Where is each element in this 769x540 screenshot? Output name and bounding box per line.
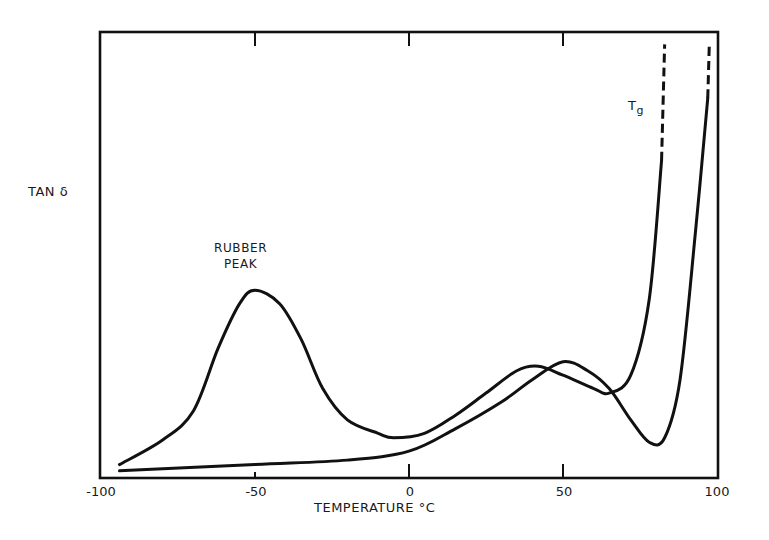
tg-subscript: g: [636, 104, 643, 117]
series-0-line: [119, 161, 661, 465]
series-1-dashed-extension: [708, 44, 710, 98]
x-tick-label-50: 50: [556, 484, 573, 499]
x-tick-label-neg100: -100: [86, 484, 116, 499]
x-axis-ticks: [255, 32, 563, 478]
series-group: [119, 44, 709, 470]
series-0-dashed-extension: [662, 44, 665, 160]
rubber-peak-annotation: RUBBER PEAK: [214, 240, 267, 272]
chart-plot-area: [0, 0, 769, 540]
x-tick-label-0: 0: [406, 484, 414, 499]
rubber-peak-line2: PEAK: [214, 256, 267, 272]
y-axis-label: TAN δ: [28, 184, 68, 199]
tg-annotation: Tg: [628, 98, 644, 113]
x-axis-label: TEMPERATURE °C: [314, 500, 435, 515]
x-tick-label-neg50: -50: [245, 484, 266, 499]
x-tick-label-100: 100: [705, 484, 730, 499]
rubber-peak-line1: RUBBER: [214, 240, 267, 256]
series-1-line: [119, 98, 707, 471]
